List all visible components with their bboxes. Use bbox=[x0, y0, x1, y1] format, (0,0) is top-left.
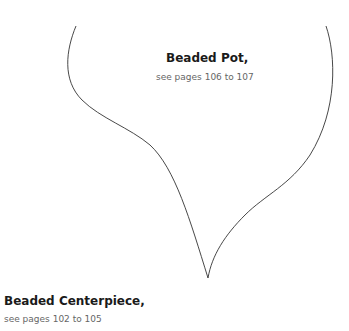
beaded-pot-title: Beaded Pot, bbox=[166, 51, 248, 65]
beaded-centerpiece-title: Beaded Centerpiece, bbox=[4, 294, 145, 308]
leaf-pattern-outline bbox=[0, 0, 349, 331]
beaded-pot-page-reference: see pages 106 to 107 bbox=[156, 72, 254, 82]
beaded-centerpiece-page-reference: see pages 102 to 105 bbox=[4, 314, 102, 324]
